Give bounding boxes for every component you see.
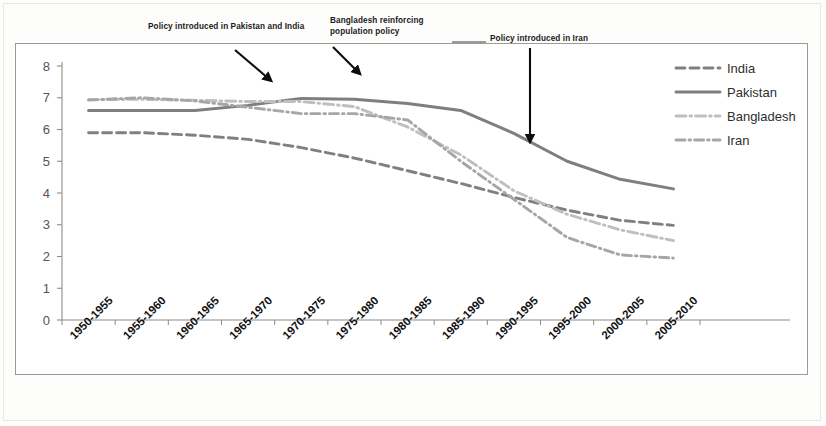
x-tick-label: 2005-2010 xyxy=(652,294,699,341)
y-tick-label: 0 xyxy=(43,313,50,328)
x-tick-label: 1995-2000 xyxy=(546,294,593,341)
x-axis-labels: 1950-19551955-19601960-19651965-19701970… xyxy=(68,294,700,342)
x-tick-label: 1950-1955 xyxy=(68,294,116,342)
axes-group xyxy=(57,62,790,325)
legend-label-pakistan: Pakistan xyxy=(727,85,777,100)
legend-label-india: India xyxy=(727,61,756,76)
chart-canvas: 012345678 1950-19551955-19601960-1965196… xyxy=(0,0,826,426)
arrow-policy-pakistan-india xyxy=(235,50,269,79)
y-tick-label: 2 xyxy=(43,249,50,264)
series-line-bangladesh xyxy=(89,99,674,240)
chart-root: Policy introduced in Pakistan and India … xyxy=(0,0,826,426)
series-group xyxy=(89,98,674,258)
arrow-bangladesh-population-policy xyxy=(333,47,358,72)
y-tick-label: 1 xyxy=(43,281,50,296)
y-axis-labels: 012345678 xyxy=(43,59,50,328)
y-tick-label: 4 xyxy=(43,186,50,201)
x-tick-label: 1970-1975 xyxy=(280,294,328,342)
x-tick-label: 1975-1980 xyxy=(333,294,380,341)
x-tick-label: 1990-1995 xyxy=(493,294,541,342)
y-axis-ticks xyxy=(57,66,62,320)
series-line-pakistan xyxy=(89,98,674,188)
x-tick-label: 1980-1985 xyxy=(387,294,435,342)
y-tick-label: 7 xyxy=(43,90,50,105)
annotation-arrows xyxy=(235,42,530,139)
x-tick-label: 1965-1970 xyxy=(227,294,274,341)
legend-label-iran: Iran xyxy=(727,133,749,148)
x-tick-label: 1955-1960 xyxy=(121,294,168,341)
y-tick-label: 8 xyxy=(43,59,50,74)
chart-legend: IndiaPakistanBangladeshIran xyxy=(676,61,796,148)
x-tick-label: 2000-2005 xyxy=(599,294,647,342)
y-tick-label: 3 xyxy=(43,217,50,232)
x-tick-label: 1985-1990 xyxy=(440,294,487,341)
y-tick-label: 5 xyxy=(43,154,50,169)
series-line-india xyxy=(89,133,674,226)
y-tick-label: 6 xyxy=(43,122,50,137)
series-line-iran xyxy=(89,98,674,258)
x-axis-ticks xyxy=(62,320,700,325)
legend-label-bangladesh: Bangladesh xyxy=(727,109,796,124)
x-tick-label: 1960-1965 xyxy=(174,294,222,342)
